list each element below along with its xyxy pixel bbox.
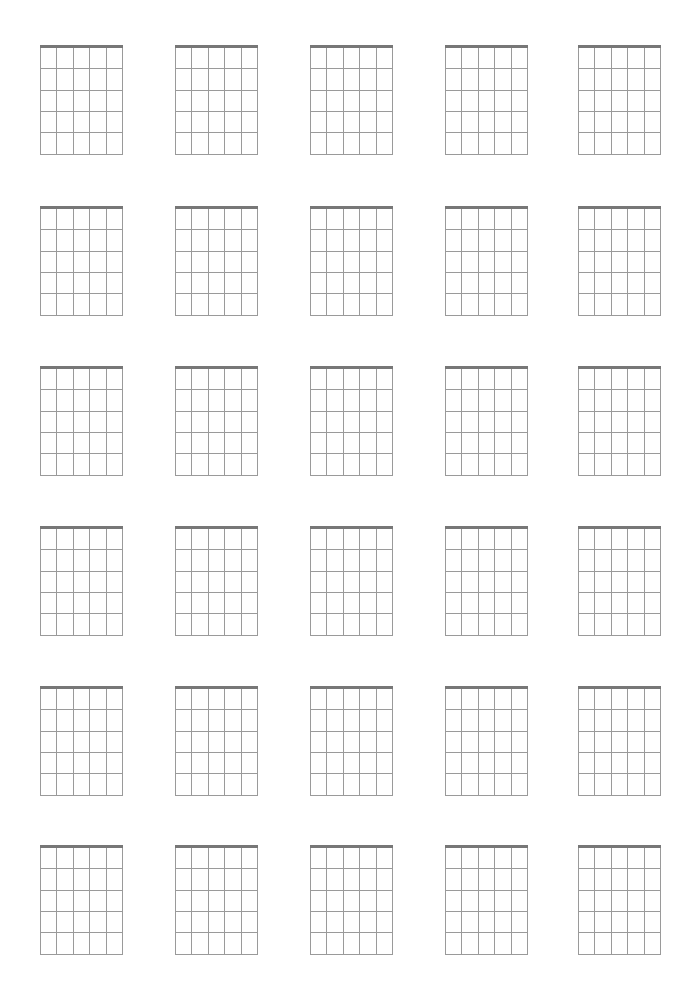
chord-grid	[40, 206, 123, 315]
chord-grid	[445, 366, 528, 475]
chord-diagram	[310, 526, 393, 635]
nut-bar	[175, 366, 258, 369]
nut-bar	[40, 526, 123, 529]
chord-grid	[310, 206, 393, 315]
chord-diagram	[40, 526, 123, 635]
chord-grid	[578, 366, 661, 475]
nut-bar	[310, 686, 393, 689]
nut-bar	[40, 686, 123, 689]
nut-bar	[578, 45, 661, 48]
nut-bar	[40, 45, 123, 48]
chord-diagram	[578, 45, 661, 154]
chord-diagram	[445, 686, 528, 795]
nut-bar	[310, 526, 393, 529]
chord-diagram	[40, 206, 123, 315]
chord-diagram	[40, 686, 123, 795]
chord-diagram	[175, 366, 258, 475]
chord-grid	[175, 206, 258, 315]
chord-diagram	[40, 45, 123, 154]
chord-grid	[40, 366, 123, 475]
chord-grid	[40, 845, 123, 954]
chord-grid	[310, 526, 393, 635]
chord-diagram	[175, 845, 258, 954]
chord-diagram	[40, 845, 123, 954]
nut-bar	[310, 45, 393, 48]
nut-bar	[445, 845, 528, 848]
chord-grid	[175, 45, 258, 154]
chord-grid	[578, 206, 661, 315]
nut-bar	[175, 526, 258, 529]
chord-diagram	[578, 686, 661, 795]
nut-bar	[40, 366, 123, 369]
chord-grid	[445, 845, 528, 954]
chord-diagram	[40, 366, 123, 475]
nut-bar	[40, 845, 123, 848]
chord-grid	[445, 45, 528, 154]
nut-bar	[445, 45, 528, 48]
chord-grid	[578, 686, 661, 795]
chord-diagram	[445, 206, 528, 315]
chord-diagram	[310, 686, 393, 795]
nut-bar	[445, 206, 528, 209]
chord-diagram	[445, 45, 528, 154]
chord-diagram	[445, 366, 528, 475]
chord-grid	[578, 45, 661, 154]
chord-diagram	[578, 366, 661, 475]
chord-grid	[175, 526, 258, 635]
chord-sheet	[0, 0, 691, 1003]
nut-bar	[175, 686, 258, 689]
chord-grid	[445, 686, 528, 795]
chord-grid	[40, 526, 123, 635]
chord-diagram	[175, 526, 258, 635]
nut-bar	[445, 366, 528, 369]
chord-diagram	[175, 686, 258, 795]
chord-diagram	[578, 845, 661, 954]
nut-bar	[578, 686, 661, 689]
chord-grid	[310, 845, 393, 954]
chord-grid	[175, 845, 258, 954]
chord-diagram	[310, 206, 393, 315]
nut-bar	[445, 686, 528, 689]
chord-diagram	[445, 845, 528, 954]
chord-diagram	[175, 45, 258, 154]
chord-grid	[578, 845, 661, 954]
chord-grid	[445, 526, 528, 635]
chord-grid	[445, 206, 528, 315]
nut-bar	[310, 366, 393, 369]
chord-grid	[310, 45, 393, 154]
nut-bar	[445, 526, 528, 529]
chord-grid	[40, 686, 123, 795]
chord-diagram	[175, 206, 258, 315]
chord-diagram	[445, 526, 528, 635]
chord-grid	[310, 686, 393, 795]
nut-bar	[40, 206, 123, 209]
nut-bar	[175, 206, 258, 209]
nut-bar	[578, 526, 661, 529]
chord-grid	[578, 526, 661, 635]
chord-grid	[40, 45, 123, 154]
chord-diagram	[578, 526, 661, 635]
nut-bar	[175, 845, 258, 848]
chord-diagram	[310, 845, 393, 954]
chord-diagram	[578, 206, 661, 315]
nut-bar	[175, 45, 258, 48]
nut-bar	[578, 206, 661, 209]
chord-grid	[175, 686, 258, 795]
nut-bar	[578, 366, 661, 369]
nut-bar	[310, 845, 393, 848]
chord-grid	[175, 366, 258, 475]
chord-diagram	[310, 45, 393, 154]
nut-bar	[310, 206, 393, 209]
chord-grid	[310, 366, 393, 475]
chord-diagram	[310, 366, 393, 475]
nut-bar	[578, 845, 661, 848]
